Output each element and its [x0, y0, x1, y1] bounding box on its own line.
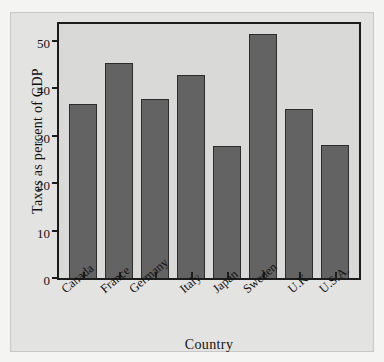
y-axis-tick-mark — [52, 277, 59, 279]
y-axis-tick-mark — [52, 40, 59, 42]
bar-slot — [101, 24, 137, 278]
y-axis-tick-label: 0 — [44, 274, 51, 287]
bar-slot — [281, 24, 317, 278]
chart-figure: 01020304050 CanadaFranceGermanyItalyJapa… — [10, 12, 374, 352]
bar-slot — [209, 24, 245, 278]
bar[interactable] — [141, 99, 170, 278]
bar[interactable] — [249, 34, 278, 278]
bar[interactable] — [69, 104, 98, 278]
x-axis-tick-labels: CanadaFranceGermanyItalyJapanSwedenU.K.U… — [57, 284, 361, 336]
bar[interactable] — [213, 146, 242, 278]
plot-area: 01020304050 — [57, 22, 361, 280]
x-axis-tick-label: France — [100, 284, 137, 336]
x-axis-tick-label: U.S.A. — [319, 284, 356, 336]
y-axis-title: Taxes as percent of GDP — [30, 41, 46, 241]
x-axis-tick-label: Sweden — [246, 284, 283, 336]
x-axis-tick-label: Italy — [173, 284, 210, 336]
bar[interactable] — [105, 63, 134, 278]
y-axis-tick-mark — [52, 135, 59, 137]
bar-series — [59, 24, 359, 278]
bar-slot — [137, 24, 173, 278]
x-axis-tick-label: Canada — [63, 284, 100, 336]
bar-slot — [245, 24, 281, 278]
y-axis-tick-mark — [52, 87, 59, 89]
y-axis-tick-mark — [52, 230, 59, 232]
x-axis-tick-label: Japan — [209, 284, 246, 336]
bar[interactable] — [177, 75, 206, 278]
bar-slot — [173, 24, 209, 278]
y-axis-tick-mark — [52, 182, 59, 184]
x-axis-tick-label: U.K. — [282, 284, 319, 336]
x-axis-title: Country — [57, 337, 361, 353]
bar-slot — [317, 24, 353, 278]
bar-slot — [65, 24, 101, 278]
x-axis-tick-label: Germany — [136, 284, 173, 336]
bar[interactable] — [285, 109, 314, 278]
bar[interactable] — [321, 145, 350, 278]
